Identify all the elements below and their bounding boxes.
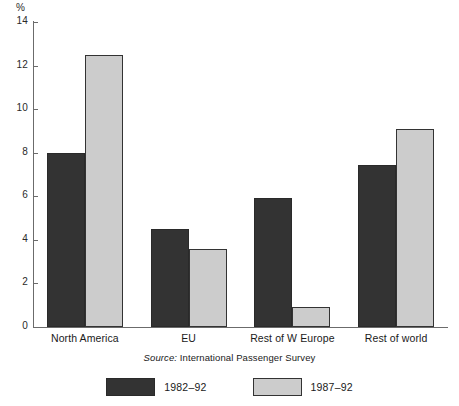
bar-group xyxy=(254,22,330,327)
bar xyxy=(292,307,330,327)
legend-item: 1982–92 xyxy=(106,378,206,396)
bar xyxy=(254,198,292,327)
bar-group xyxy=(47,22,123,327)
y-tick-label: 6 xyxy=(0,189,28,200)
legend-swatch xyxy=(253,378,302,396)
y-tick-mark xyxy=(33,327,38,328)
y-axis-unit-label: % xyxy=(16,2,25,13)
chart-legend: 1982–921987–92 xyxy=(0,378,459,396)
x-axis-line xyxy=(33,327,448,328)
y-tick-label: 4 xyxy=(0,233,28,244)
y-tick-label: 14 xyxy=(0,15,28,26)
bar xyxy=(396,129,434,327)
y-tick-label: 12 xyxy=(0,59,28,70)
bars-layer xyxy=(33,22,448,327)
bar-chart-figure: % 14121086420 North AmericaEURest of W E… xyxy=(0,0,459,406)
bar xyxy=(151,229,189,327)
bar xyxy=(85,55,123,327)
x-axis-category-labels: North AmericaEURest of W EuropeRest of w… xyxy=(33,332,448,350)
source-note: Source: International Passenger Survey xyxy=(0,352,459,363)
source-text: International Passenger Survey xyxy=(180,352,316,363)
y-tick-label: 2 xyxy=(0,276,28,287)
bar xyxy=(358,165,396,327)
bar xyxy=(47,153,85,327)
y-tick-label: 0 xyxy=(0,320,28,331)
legend-item: 1987–92 xyxy=(253,378,353,396)
bar-group xyxy=(358,22,434,327)
legend-label: 1987–92 xyxy=(311,381,353,393)
bar-group xyxy=(151,22,227,327)
y-tick-label: 10 xyxy=(0,102,28,113)
legend-swatch xyxy=(106,378,155,396)
legend-label: 1982–92 xyxy=(164,381,206,393)
source-prefix: Source: xyxy=(144,352,177,363)
y-tick-label: 8 xyxy=(0,146,28,157)
x-axis-category-label: Rest of world xyxy=(318,332,459,344)
bar xyxy=(189,249,227,327)
